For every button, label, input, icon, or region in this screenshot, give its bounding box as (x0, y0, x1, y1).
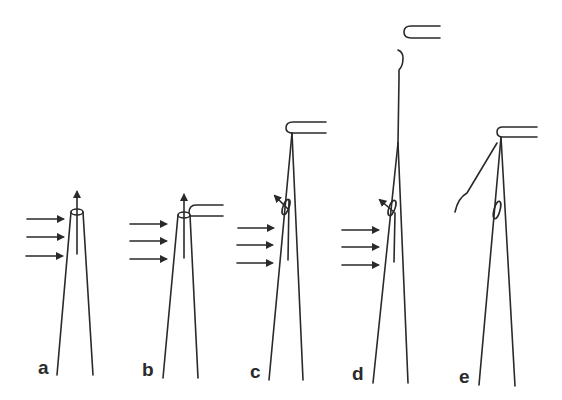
flow-arrows (237, 228, 273, 263)
flow-arrows (130, 224, 166, 259)
thread-top-curl (398, 50, 403, 143)
diagram-canvas: a b c d e (0, 0, 562, 400)
thread-right (398, 143, 408, 383)
tube-right-wall (190, 215, 198, 378)
thread-right (292, 133, 303, 380)
panel-c (237, 122, 326, 380)
holding-pipette (497, 127, 537, 137)
thread-right (501, 137, 515, 386)
thread-left (373, 143, 398, 383)
flow-arrows (342, 230, 378, 265)
holding-pipette (404, 26, 440, 38)
panel-label-e: e (459, 367, 470, 386)
diagram-svg (0, 0, 562, 400)
knot-loop (492, 201, 502, 220)
panel-label-b: b (142, 360, 154, 379)
panel-a (26, 192, 93, 375)
panel-label-c: c (250, 362, 261, 381)
panel-label-d: d (352, 364, 364, 383)
thread-left (479, 137, 501, 385)
holding-pipette-upper (189, 205, 223, 213)
inner-thread (394, 213, 395, 262)
panel-d (342, 26, 440, 383)
panel-b (130, 195, 223, 378)
released-thread (455, 143, 497, 212)
panel-e (455, 127, 537, 386)
panel-label-a: a (38, 358, 49, 377)
tube-left-wall (163, 215, 178, 378)
holding-pipette (286, 122, 326, 133)
tube-right-wall (83, 212, 93, 375)
flow-arrows (26, 219, 63, 256)
